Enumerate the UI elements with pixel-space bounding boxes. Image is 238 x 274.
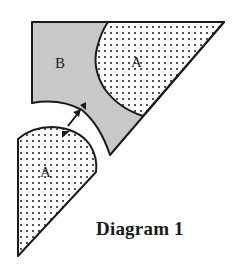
label-a-lower: A xyxy=(40,164,51,180)
diagram-caption: Diagram 1 xyxy=(96,218,184,240)
label-a-upper: A xyxy=(131,54,142,70)
label-b: B xyxy=(55,55,65,71)
region-a-lower-shape xyxy=(18,127,96,256)
arrow-icon xyxy=(68,109,81,126)
